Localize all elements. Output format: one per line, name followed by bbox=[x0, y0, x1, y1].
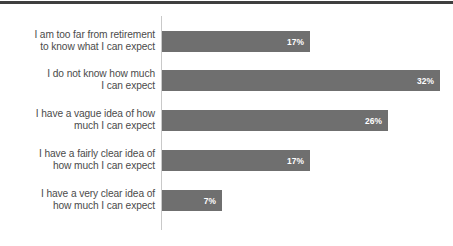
bar-row: I have a vague idea of how much I can ex… bbox=[0, 110, 453, 131]
plot-area: I am too far from retirement to know wha… bbox=[0, 0, 453, 246]
bar-row: I do not know how much I can expect 32% bbox=[0, 70, 453, 91]
bar-value-label: 17% bbox=[287, 37, 304, 47]
category-label: I have a fairly clear idea of how much I… bbox=[6, 148, 155, 173]
bar-row: I have a very clear idea of how much I c… bbox=[0, 190, 453, 211]
bar-value-label: 17% bbox=[287, 156, 304, 166]
category-label: I am too far from retirement to know wha… bbox=[6, 29, 155, 54]
bar-segment: 17% bbox=[162, 31, 310, 52]
bar-value-label: 32% bbox=[417, 76, 434, 86]
category-label: I have a very clear idea of how much I c… bbox=[6, 188, 155, 213]
category-label: I have a vague idea of how much I can ex… bbox=[6, 108, 155, 133]
bar-segment: 7% bbox=[162, 190, 222, 211]
bar-value-label: 26% bbox=[365, 116, 382, 126]
bar-chart: I am too far from retirement to know wha… bbox=[0, 0, 453, 246]
bar-segment: 26% bbox=[162, 110, 388, 131]
bar-row: I have a fairly clear idea of how much I… bbox=[0, 150, 453, 171]
bar-row: I am too far from retirement to know wha… bbox=[0, 31, 453, 52]
bar-segment: 32% bbox=[162, 70, 440, 91]
bar-segment: 17% bbox=[162, 150, 310, 171]
bar-value-label: 7% bbox=[204, 196, 216, 206]
category-label: I do not know how much I can expect bbox=[6, 68, 155, 93]
